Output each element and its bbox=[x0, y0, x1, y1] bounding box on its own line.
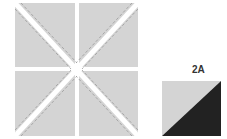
unit-label: 2A bbox=[192, 64, 205, 75]
half-square-triangle-unit bbox=[162, 81, 221, 136]
quilt-block-grid bbox=[15, 3, 138, 136]
